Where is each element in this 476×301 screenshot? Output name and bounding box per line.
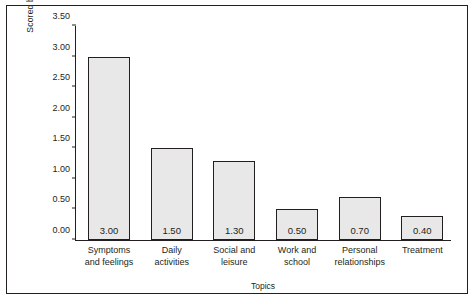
x-category-label-treatment: Treatment <box>379 245 465 257</box>
x-label-line-1: Personal <box>342 245 378 255</box>
bar-daily-activities: 1.50 <box>151 148 193 240</box>
bar-value-label: 1.30 <box>214 225 254 236</box>
y-tick-mark <box>72 147 76 148</box>
y-tick-label: 2.00 <box>52 103 76 113</box>
x-label-line-2: leisure <box>221 257 248 267</box>
x-label-line-2: and feelings <box>85 257 134 267</box>
bar-value-label: 3.00 <box>89 225 129 236</box>
bar-treatment: 0.40 <box>401 216 443 240</box>
y-tick-mark <box>72 25 76 26</box>
x-label-line-1: Social and <box>213 245 255 255</box>
y-tick-mark <box>72 55 76 56</box>
y-tick-mark <box>72 239 76 240</box>
bar-value-label: 0.50 <box>277 225 317 236</box>
y-tick-mark <box>72 116 76 117</box>
x-label-line-1: Treatment <box>402 245 443 255</box>
x-label-line-2: relationships <box>334 257 385 267</box>
x-label-line-1: Symptoms <box>88 245 131 255</box>
y-tick-label: 3.00 <box>52 42 76 52</box>
x-label-line-2: activities <box>154 257 189 267</box>
x-axis-title: Topics <box>75 281 451 291</box>
bar-social-and-leisure: 1.30 <box>213 161 255 240</box>
chart-screenshot: Scored by DLQI 0.00 0.50 1.00 1.50 2.00 … <box>0 0 476 301</box>
y-tick-label: 3.50 <box>52 11 76 21</box>
bar-value-label: 1.50 <box>152 225 192 236</box>
bar-value-label: 0.70 <box>340 225 380 236</box>
y-tick-label: 1.00 <box>52 164 76 174</box>
bar-symptoms-and-feelings: 3.00 <box>88 57 130 240</box>
y-tick-label: 2.50 <box>52 72 76 82</box>
figure-frame: Scored by DLQI 0.00 0.50 1.00 1.50 2.00 … <box>6 5 468 294</box>
y-tick-mark <box>72 177 76 178</box>
bar-work-and-school: 0.50 <box>276 209 318 240</box>
y-tick-mark <box>72 86 76 87</box>
bar-value-label: 0.40 <box>402 225 442 236</box>
y-tick-mark <box>72 208 76 209</box>
plot-area: 0.00 0.50 1.00 1.50 2.00 2.50 3.00 3.50 … <box>75 26 451 241</box>
y-tick-label: 0.00 <box>52 225 76 235</box>
y-tick-label: 0.50 <box>52 194 76 204</box>
y-axis-title: Scored by DLQI <box>23 0 37 66</box>
x-label-line-1: Daily <box>162 245 182 255</box>
x-label-line-1: Work and <box>278 245 316 255</box>
x-label-line-2: school <box>284 257 310 267</box>
y-tick-label: 1.50 <box>52 133 76 143</box>
bar-personal-relationships: 0.70 <box>339 197 381 240</box>
